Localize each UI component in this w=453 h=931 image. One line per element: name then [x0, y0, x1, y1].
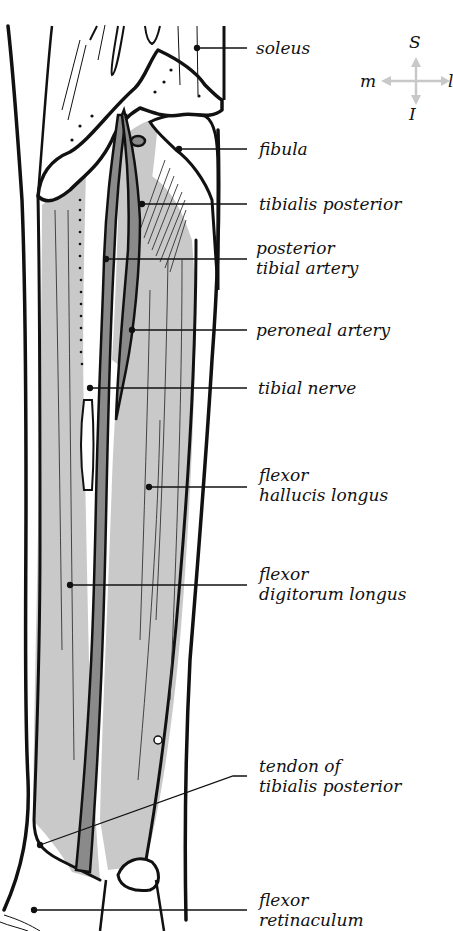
label-peroneal-artery: peroneal artery — [256, 320, 390, 340]
label-line: flexor — [259, 564, 406, 584]
label-line: tibialis posterior — [259, 194, 401, 214]
label-line: retinaculum — [259, 910, 364, 930]
label-posterior-tibial-artery: posterior tibial artery — [256, 238, 358, 278]
label-line: tendon of — [259, 756, 401, 776]
label-flexor-retinaculum: flexor retinaculum — [259, 890, 364, 930]
label-fibula: fibula — [259, 139, 308, 159]
label-tibialis-posterior: tibialis posterior — [259, 194, 401, 214]
label-line: posterior — [256, 238, 358, 258]
label-line: tibial artery — [256, 258, 358, 278]
label-line: flexor — [259, 890, 364, 910]
label-line: digitorum longus — [259, 584, 406, 604]
label-soleus: soleus — [256, 38, 310, 58]
label-line: flexor — [259, 465, 388, 485]
label-flexor-hallucis-longus: flexor hallucis longus — [259, 465, 388, 505]
label-tibial-nerve: tibial nerve — [258, 378, 356, 398]
label-line: hallucis longus — [259, 485, 388, 505]
orientation-compass — [381, 57, 450, 105]
label-line: soleus — [256, 38, 310, 58]
compass-superior-label: S — [409, 32, 421, 52]
label-line: tibial nerve — [258, 378, 356, 398]
label-tendon-of-tibialis-posterior: tendon of tibialis posterior — [259, 756, 401, 796]
compass-inferior-label: I — [409, 104, 416, 124]
tibial-nerve — [81, 400, 94, 490]
label-line: fibula — [259, 139, 308, 159]
compass-lateral-label: l — [448, 71, 453, 91]
label-flexor-digitorum-longus: flexor digitorum longus — [259, 564, 406, 604]
label-line: peroneal artery — [256, 320, 390, 340]
label-line: tibialis posterior — [259, 776, 401, 796]
compass-medial-label: m — [360, 71, 376, 91]
